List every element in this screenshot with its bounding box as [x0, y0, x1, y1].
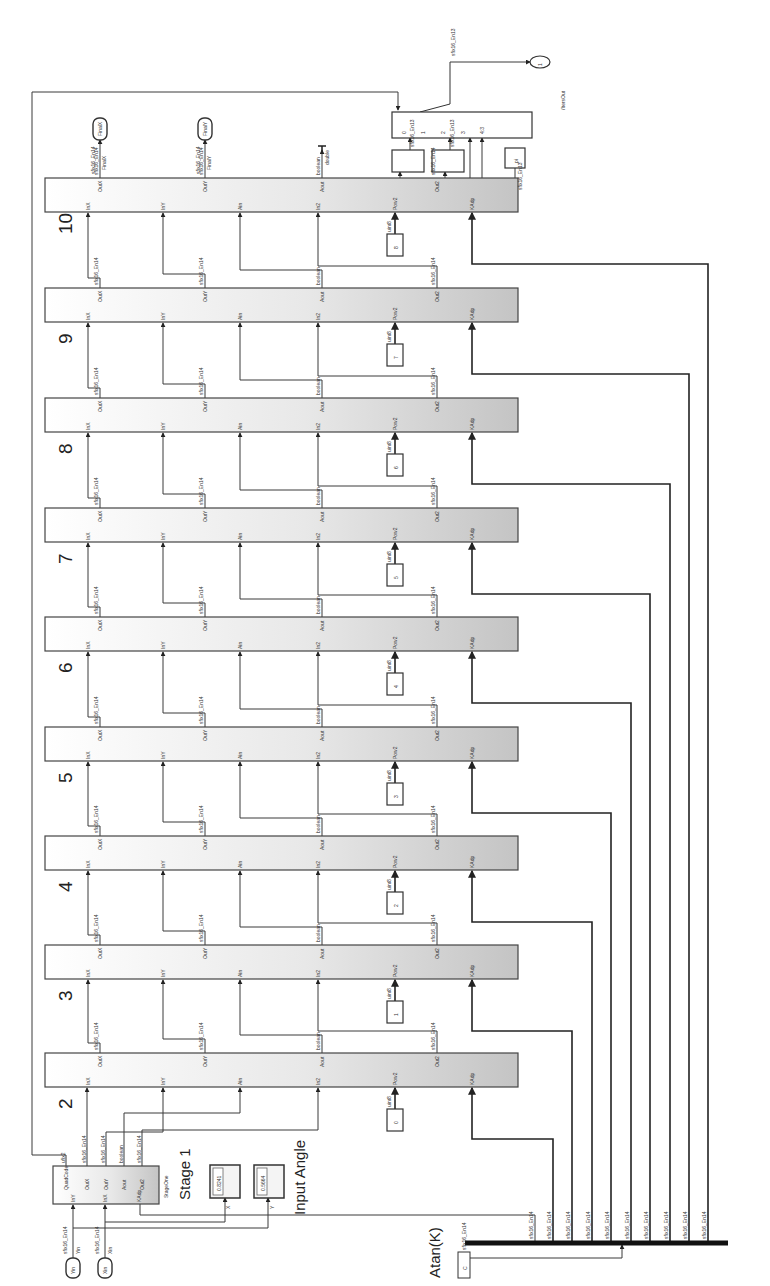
- signal-type-label: sfix16_En14: [93, 367, 99, 395]
- stage-block-6[interactable]: [45, 617, 518, 651]
- input-port-ain: Ain: [237, 423, 243, 430]
- pow2-constant-block[interactable]: [387, 454, 403, 476]
- out2-to-in2-wire: [318, 762, 437, 836]
- aout-to-ain-wire: [240, 323, 322, 398]
- pow2-type-label: uint8: [386, 221, 392, 232]
- input-port-iny: InY: [160, 312, 166, 320]
- stage-block-7[interactable]: [45, 508, 518, 542]
- stage-6-body[interactable]: [45, 617, 518, 651]
- input-port-pow2: Pow2: [392, 1072, 398, 1085]
- stage-9-body[interactable]: [45, 288, 518, 322]
- signal-type-label: sfix16_En14: [93, 696, 99, 724]
- output-port-aout: Aout: [319, 1056, 325, 1067]
- stage-10-body[interactable]: [45, 178, 518, 212]
- display-value: 0.5664: [260, 1175, 266, 1191]
- output-port-outy: OutY: [202, 947, 208, 959]
- output-port-outx: OutX: [97, 729, 103, 741]
- outport-type: sfix16_En14: [90, 146, 96, 174]
- pow2-constant-block[interactable]: [387, 1109, 403, 1131]
- input-port-in2: In2: [315, 642, 321, 649]
- output-port-outy: OutY: [202, 400, 208, 412]
- quadrant-gain-block[interactable]: [392, 150, 424, 172]
- output-port-out2: Out2: [434, 511, 440, 522]
- input-port-kadp: KAdp: [469, 308, 475, 320]
- stage-5-body[interactable]: [45, 727, 518, 761]
- stage-2-body[interactable]: [45, 1053, 518, 1087]
- pow2-constant-block[interactable]: [387, 564, 403, 586]
- stage-block-4[interactable]: [45, 836, 518, 870]
- input-port-kadp: KAdp: [469, 418, 475, 430]
- pow2-type-label: uint8: [386, 441, 392, 452]
- atan-constant-block[interactable]: [458, 1252, 470, 1278]
- output-port-outy: OutY: [202, 1055, 208, 1067]
- input-port-ain: Ain: [237, 861, 243, 868]
- signal-type-label: sfix16_En14: [430, 586, 436, 614]
- bus-signal-type: sfix16_En14: [546, 1211, 552, 1239]
- input-port-kadp: KAdp: [469, 965, 475, 977]
- pow2-constant-block[interactable]: [387, 673, 403, 695]
- out2-to-in2-wire: [318, 980, 437, 1053]
- stage1-input-inx: InX: [102, 1194, 108, 1202]
- switch-port-label: 4:3: [479, 127, 485, 134]
- pow2-constant-value: 3: [393, 795, 399, 798]
- pow2-constant-block[interactable]: [387, 783, 403, 805]
- stage-4-body[interactable]: [45, 836, 518, 870]
- pow2-constant-block[interactable]: [387, 234, 403, 256]
- pi-type-label: sfix16_En13: [517, 162, 523, 190]
- stage1-output-quadcode: QuadCode: [63, 1166, 69, 1190]
- input-port-inx: InX: [85, 641, 91, 649]
- stage-block-10[interactable]: [45, 178, 518, 212]
- stage-3-body[interactable]: [45, 945, 518, 979]
- pow2-constant-value: 2: [393, 904, 399, 907]
- pow2-constant-block[interactable]: [387, 344, 403, 366]
- signal-type-label: sfix16_En14: [430, 805, 436, 833]
- bus-signal-type: sfix16_En14: [528, 1211, 534, 1239]
- stage-block-3[interactable]: [45, 945, 518, 979]
- signal-type-label: boolean: [315, 924, 321, 942]
- signal-type-label: boolean: [315, 157, 321, 175]
- signal-type-label: boolean: [315, 706, 321, 724]
- signal-type-label: sfix16_En14: [430, 367, 436, 395]
- output-port-outx: OutX: [97, 1055, 103, 1067]
- pow2-type-label: uint8: [386, 770, 392, 781]
- stage1-label: Stage 1: [176, 1148, 193, 1200]
- aout-to-ain-wire: [240, 213, 322, 288]
- out2-to-in2-wire: [318, 323, 437, 398]
- out2-to-in2-wire: [318, 433, 437, 508]
- out2-to-in2-wire: [318, 213, 437, 288]
- signal-type-label: sfix16_En14: [430, 147, 436, 175]
- stage-8-body[interactable]: [45, 398, 518, 432]
- signal-type-label: sfix16_En14: [430, 257, 436, 285]
- bus-signal-type: sfix16_En14: [663, 1211, 669, 1239]
- signal-type-label: sfix16_En14: [198, 477, 204, 505]
- stage-block-5[interactable]: [45, 727, 518, 761]
- output-port-aout: Aout: [319, 839, 325, 850]
- pow2-constant-block[interactable]: [387, 892, 403, 914]
- aout-to-ain-wire: [240, 543, 322, 617]
- bus-signal-type: sfix16_En14: [565, 1211, 571, 1239]
- output-port-outx: OutX: [97, 510, 103, 522]
- out2-to-in2-wire: [318, 543, 437, 617]
- output-port-out2: Out2: [434, 1056, 440, 1067]
- switch-port-label: 1: [420, 131, 426, 134]
- out2-to-in2-wire: [318, 652, 437, 727]
- input-port-pow2: Pow2: [392, 964, 398, 977]
- input-port-iny: InY: [160, 641, 166, 649]
- output-port-outy: OutY: [202, 729, 208, 741]
- pow2-type-label: uint8: [386, 1096, 392, 1107]
- subsystem-label: /ItersOut: [560, 90, 566, 110]
- stage1-output-outy: OutY: [103, 1178, 109, 1190]
- quadrant-gain-block[interactable]: [432, 150, 464, 172]
- output-port-out2: Out2: [434, 401, 440, 412]
- input-port-kadp: KAdp: [469, 637, 475, 649]
- stage-7-body[interactable]: [45, 508, 518, 542]
- stage-block-2[interactable]: [45, 1053, 518, 1087]
- aout-to-ain-wire: [240, 980, 322, 1053]
- bus-signal-type: sfix16_En14: [604, 1211, 610, 1239]
- stage-block-9[interactable]: [45, 288, 518, 322]
- input-port-inx: InX: [85, 312, 91, 320]
- stage-block-8[interactable]: [45, 398, 518, 432]
- input-port-ain: Ain: [237, 313, 243, 320]
- input-port-in2: In2: [315, 203, 321, 210]
- pow2-constant-block[interactable]: [387, 1001, 403, 1023]
